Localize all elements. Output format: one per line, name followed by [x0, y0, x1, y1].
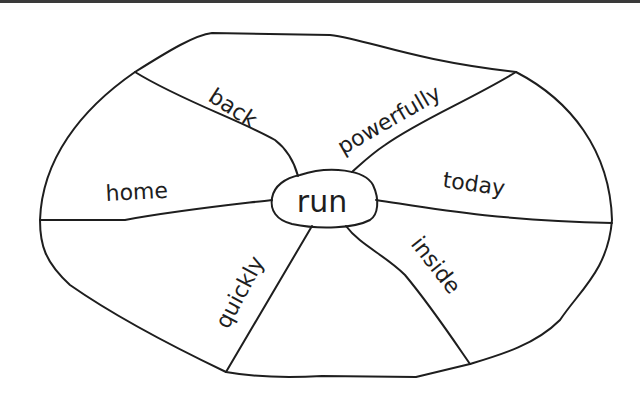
spoke-label-home: home [105, 178, 169, 206]
center-word: run [297, 184, 347, 219]
spoke-right [376, 200, 612, 223]
spoke-label-quickly: quickly [210, 252, 269, 333]
spoke-label-today: today [441, 167, 506, 200]
word-web-diagram: back powerfully home today quickly insid… [0, 0, 640, 403]
spoke-label-back: back [204, 83, 262, 133]
